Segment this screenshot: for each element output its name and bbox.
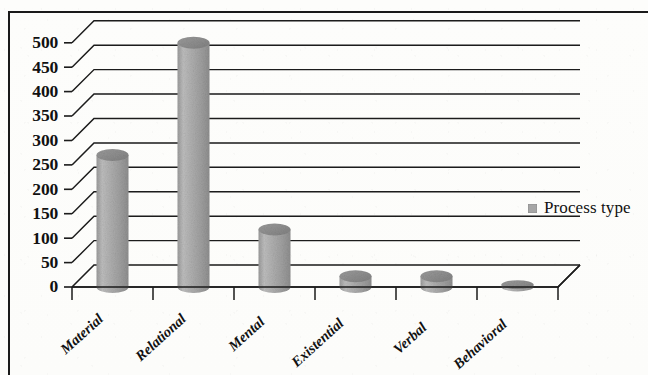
bar-material xyxy=(97,149,129,293)
legend-swatch-process-type xyxy=(528,204,537,213)
y-tick-label: 0 xyxy=(12,278,58,296)
gridlines-group xyxy=(72,21,580,263)
y-tick-label: 350 xyxy=(12,107,58,125)
y-tick-label: 100 xyxy=(12,230,58,248)
y-tick-label: 50 xyxy=(12,254,58,272)
y-tick-label: 150 xyxy=(12,205,58,223)
y-axis-ticks xyxy=(64,43,72,287)
y-tick-label: 500 xyxy=(12,34,58,52)
bar-mental xyxy=(259,223,291,293)
y-tick-label: 200 xyxy=(12,181,58,199)
bar-verbal xyxy=(421,270,453,293)
bar-chart-plot: 500 450 400 350 300 250 200 150 100 50 0… xyxy=(0,0,648,375)
y-tick-label: 250 xyxy=(12,156,58,174)
y-tick-label: 450 xyxy=(12,59,58,77)
bar-relational xyxy=(178,37,210,293)
bars-group xyxy=(97,37,534,293)
y-tick-label: 300 xyxy=(12,132,58,150)
y-tick-label: 400 xyxy=(12,83,58,101)
legend-label-process-type: Process type xyxy=(544,198,631,218)
bar-existential xyxy=(340,270,372,293)
x-axis-ticks xyxy=(72,287,558,300)
bar-behavioral xyxy=(502,280,534,291)
chart-legend: Process type xyxy=(528,198,631,218)
